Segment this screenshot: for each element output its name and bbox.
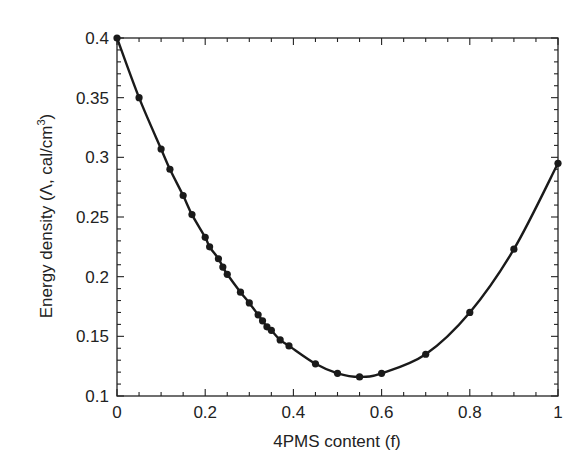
y-axis-label: Energy density (Λ, cal/cm3) [35,114,56,319]
data-point-marker [206,243,213,250]
x-tick-label: 1 [553,403,562,422]
y-tick-label: 0.1 [85,387,109,406]
data-point-marker [554,160,561,167]
y-axis-label-main: Energy density (Λ, cal/cm [37,126,56,319]
data-point-marker [334,370,341,377]
data-point-marker [188,211,195,218]
x-axis-label: 4PMS content (f) [273,432,401,451]
data-point-marker [135,94,142,101]
data-point-marker [113,34,120,41]
data-point-marker [219,264,226,271]
x-tick-label: 0.4 [282,403,306,422]
data-point-marker [277,336,284,343]
data-point-marker [312,360,319,367]
plot-frame [117,38,558,396]
data-point-marker [466,309,473,316]
data-point-marker [246,299,253,306]
data-point-marker [422,351,429,358]
data-point-marker [166,166,173,173]
data-point-marker [180,192,187,199]
data-point-marker [378,370,385,377]
x-axis-tick-labels: 00.20.40.60.81 [112,403,562,422]
x-tick-label: 0.6 [370,403,394,422]
y-axis-tick-labels: 0.10.150.20.250.30.350.4 [76,29,109,406]
data-point-marker [255,311,262,318]
y-tick-label: 0.25 [76,208,109,227]
data-point-marker [202,234,209,241]
data-point-marker [285,342,292,349]
x-tick-label: 0 [112,403,121,422]
x-tick-label: 0.8 [458,403,482,422]
data-point-marker [259,317,266,324]
data-point-markers [113,34,561,380]
data-point-marker [215,255,222,262]
energy-density-chart: 00.20.40.60.81 0.10.150.20.250.30.350.4 … [0,0,588,476]
y-tick-label: 0.2 [85,268,109,287]
y-axis-label-end: ) [37,114,56,120]
data-point-marker [224,271,231,278]
energy-density-curve [117,38,558,377]
data-point-marker [356,373,363,380]
x-tick-label: 0.2 [193,403,217,422]
data-point-marker [268,327,275,334]
y-tick-label: 0.15 [76,327,109,346]
data-point-marker [510,246,517,253]
y-tick-label: 0.4 [85,29,109,48]
y-tick-label: 0.3 [85,148,109,167]
y-tick-label: 0.35 [76,89,109,108]
axis-ticks [117,38,558,396]
data-point-marker [237,289,244,296]
data-point-marker [158,145,165,152]
